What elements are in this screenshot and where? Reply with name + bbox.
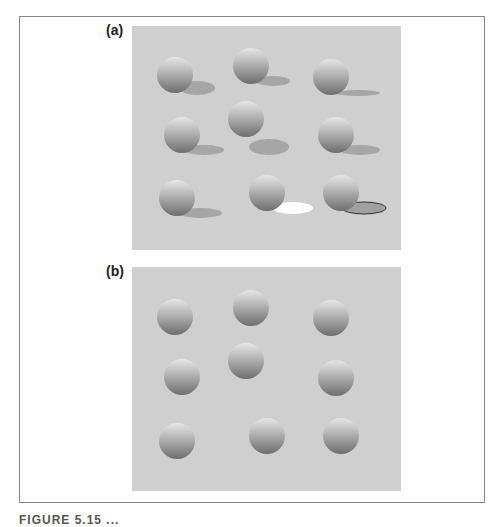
- sphere: [157, 57, 193, 93]
- sphere: [313, 300, 349, 336]
- sphere: [318, 360, 354, 396]
- panel-b-label: (b): [106, 263, 124, 279]
- sphere: [318, 117, 354, 153]
- panel-a-label: (a): [106, 22, 123, 38]
- sphere: [233, 290, 269, 326]
- sphere: [164, 359, 200, 395]
- sphere: [323, 175, 359, 211]
- panel-a-scene: [132, 26, 401, 250]
- sphere: [228, 343, 264, 379]
- sphere: [249, 418, 285, 454]
- sphere: [313, 59, 349, 95]
- panel-b-scene: [132, 267, 401, 491]
- shadow: [249, 139, 289, 155]
- shadow: [336, 90, 380, 96]
- panel-a: [132, 26, 401, 250]
- panel-b: [132, 267, 401, 491]
- sphere: [159, 423, 195, 459]
- figure-caption: FIGURE 5.15 ...: [19, 513, 119, 527]
- sphere: [249, 175, 285, 211]
- sphere: [323, 418, 359, 454]
- sphere: [157, 299, 193, 335]
- sphere: [228, 101, 264, 137]
- sphere: [233, 48, 269, 84]
- sphere: [164, 117, 200, 153]
- sphere: [159, 180, 195, 216]
